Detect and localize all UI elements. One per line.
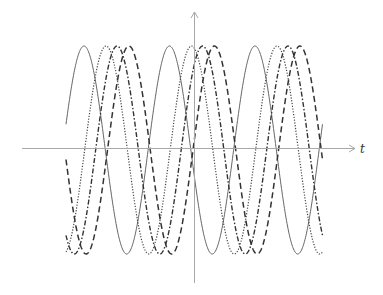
chart: t (0, 0, 383, 295)
x-axis-label: t (360, 142, 365, 156)
